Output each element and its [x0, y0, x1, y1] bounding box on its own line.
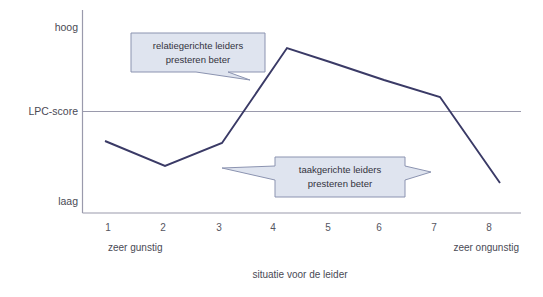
x-tick-4: 4 [270, 222, 276, 233]
callout-relatiegerichte-line2: presteren beter [166, 54, 230, 65]
x-axis-title: situatie voor de leider [252, 269, 348, 280]
callout-taakgerichte-line1: taakgerichte leiders [299, 164, 382, 175]
lpc-score-line-chart: hoog LPC-score laag 1 2 3 4 5 6 7 8 zeer… [0, 0, 543, 297]
x-axis-end-caption: zeer ongunstig [453, 242, 519, 253]
x-tick-1: 1 [105, 222, 111, 233]
y-axis-mid-label: LPC-score [28, 105, 78, 117]
y-axis-high-label: hoog [55, 21, 79, 33]
x-tick-2: 2 [160, 222, 166, 233]
x-axis-start-caption: zeer gunstig [108, 242, 162, 253]
x-tick-6: 6 [376, 222, 382, 233]
figure-container: hoog LPC-score laag 1 2 3 4 5 6 7 8 zeer… [0, 0, 543, 297]
y-axis-low-label: laag [58, 195, 78, 207]
x-tick-7: 7 [431, 222, 437, 233]
callout-taakgerichte-line2: presteren beter [308, 178, 372, 189]
x-tick-8: 8 [486, 222, 492, 233]
x-tick-3: 3 [216, 222, 222, 233]
callout-relatiegerichte-line1: relatiegerichte leiders [153, 40, 244, 51]
x-tick-5: 5 [325, 222, 331, 233]
